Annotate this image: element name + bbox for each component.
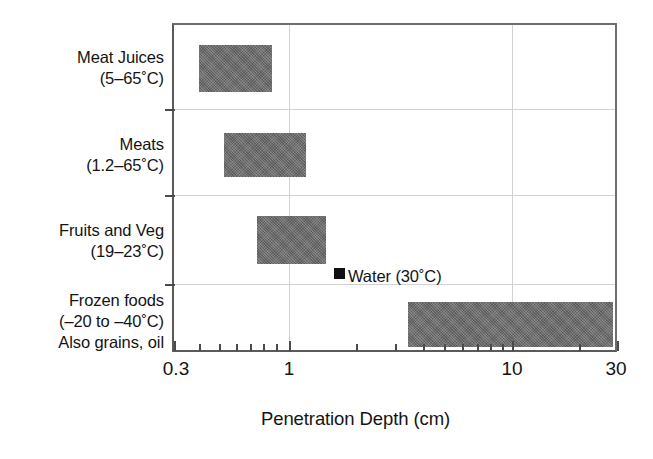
x-axis-tick-5 — [444, 344, 446, 351]
x-axis-tick-3 — [395, 344, 397, 351]
x-axis-tick-1 — [289, 341, 291, 351]
category-label-line: Meats — [86, 134, 164, 155]
x-tick-label-30: 30 — [605, 358, 626, 380]
y-axis-tick — [165, 195, 175, 197]
x-axis-tick-0.7 — [250, 344, 252, 351]
x-axis-tick-9 — [502, 344, 504, 351]
x-axis-title-text: Penetration Depth (cm) — [203, 408, 450, 429]
x-axis-tick-4 — [423, 344, 425, 351]
category-label-line: Fruits and Veg — [59, 220, 164, 241]
x-axis-tick-30 — [617, 341, 619, 351]
category-label-line: Meat Juices — [77, 47, 164, 68]
category-label-fruits-and-veg: Fruits and Veg (19–23˚C) — [59, 220, 164, 262]
gridline-vertical-1 — [289, 25, 290, 350]
x-axis-title: Penetration Depth (cm) — [0, 408, 653, 430]
bar-meats — [224, 133, 306, 177]
category-label-line: Also grains, oil — [58, 332, 164, 353]
x-axis-tick-10 — [512, 341, 514, 351]
x-axis-tick-0.5 — [219, 344, 221, 351]
bar-frozen-foods — [408, 302, 613, 347]
category-label-meats: Meats (1.2–65˚C) — [86, 134, 164, 176]
x-axis-tick-0.9 — [276, 344, 278, 351]
category-label-meat-juices: Meat Juices (5–65˚C) — [77, 47, 164, 89]
plot-area: Water (30˚C) — [172, 23, 617, 352]
x-axis-tick-20 — [579, 344, 581, 351]
x-tick-label-10: 10 — [501, 358, 522, 380]
x-axis-tick-0.8 — [263, 344, 265, 351]
category-label-line: Frozen foods — [58, 290, 164, 311]
water-annotation-label: Water (30˚C) — [348, 268, 442, 284]
category-label-line: (1.2–65˚C) — [86, 155, 164, 176]
x-axis-tick-0.4 — [199, 344, 201, 351]
water-data-point-marker — [334, 268, 345, 279]
bar-meat-juices — [199, 45, 272, 92]
x-axis-tick-0.6 — [236, 344, 238, 351]
category-label-line: (–20 to –40˚C) — [58, 311, 164, 332]
x-tick-label-1: 1 — [284, 358, 295, 380]
category-label-line: (5–65˚C) — [77, 68, 164, 89]
x-axis-tick-8 — [490, 344, 492, 351]
gridline-horizontal — [174, 109, 615, 110]
x-axis-tick-2 — [356, 344, 358, 351]
x-axis-tick-7 — [477, 344, 479, 351]
category-label-column: Meat Juices (5–65˚C) Meats (1.2–65˚C) Fr… — [0, 0, 168, 355]
y-axis-tick — [165, 284, 175, 286]
category-label-line: (19–23˚C) — [59, 241, 164, 262]
x-axis-tick-6 — [462, 344, 464, 351]
category-label-frozen-foods: Frozen foods (–20 to –40˚C) Also grains,… — [58, 290, 164, 353]
gridline-horizontal — [174, 195, 615, 196]
penetration-depth-chart: Meat Juices (5–65˚C) Meats (1.2–65˚C) Fr… — [0, 0, 653, 459]
y-axis-tick — [165, 109, 175, 111]
x-axis-tick-0.3 — [174, 341, 176, 351]
x-tick-label-0.3: 0.3 — [163, 358, 189, 380]
bar-fruits-and-veg — [257, 216, 326, 264]
